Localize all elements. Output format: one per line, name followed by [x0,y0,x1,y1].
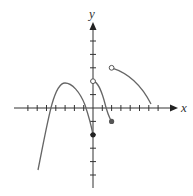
right-curve [112,68,151,104]
closed-point-middle-end [109,119,114,124]
y-axis-arrow-icon [90,22,97,30]
function-graph: x y [0,0,193,196]
middle-curve [93,81,112,121]
y-axis-label: y [87,6,95,21]
closed-point-left-end [90,132,95,137]
left-curve [38,83,93,170]
open-point-right-start [109,65,114,70]
x-axis-label: x [180,100,187,115]
open-point-middle-start [91,79,96,84]
x-axis-arrow-icon [170,105,178,112]
